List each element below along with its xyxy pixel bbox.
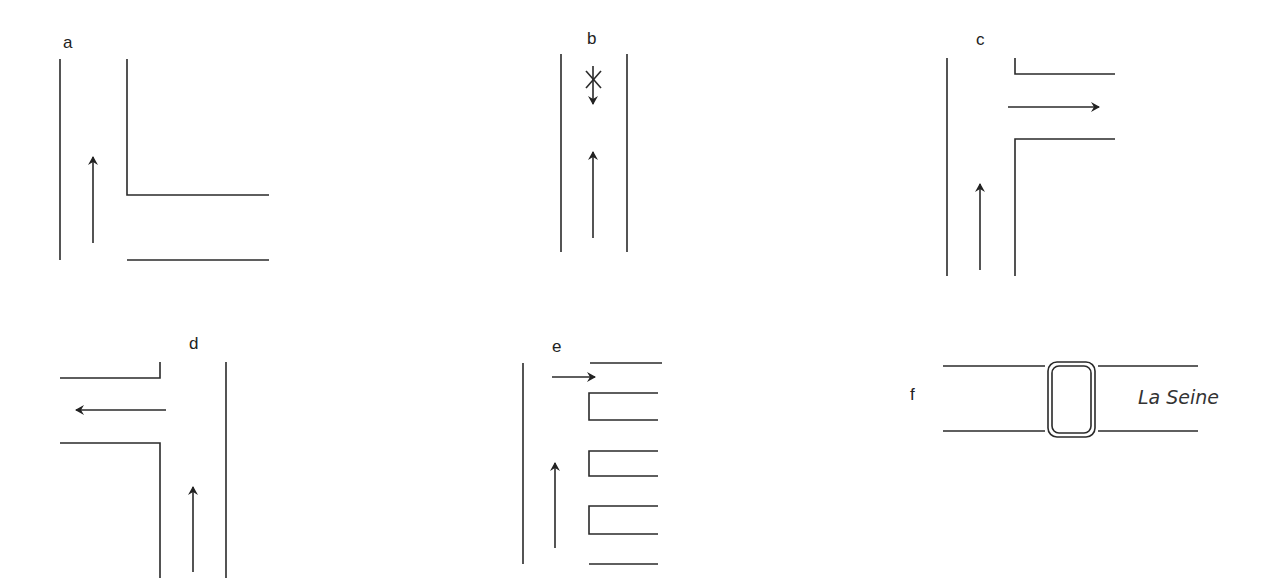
road-edge-corner-bottom (1015, 139, 1115, 276)
bridge-inner (1052, 366, 1091, 433)
panel-f: f La Seine (910, 362, 1219, 437)
road-edge-corner (127, 59, 269, 195)
panel-a-label: a (63, 33, 73, 52)
panel-c-label: c (976, 30, 985, 49)
panel-d: d (60, 334, 226, 578)
panel-b-label: b (587, 29, 596, 48)
panel-e-label: e (552, 337, 561, 356)
bridge-icon (1048, 362, 1095, 437)
road-edge-corner-top (1015, 58, 1115, 74)
diagram-canvas: a b c d e (0, 0, 1272, 584)
panel-c: c (947, 30, 1115, 276)
panel-a: a (60, 33, 269, 260)
opening-3 (589, 506, 658, 534)
panel-b: b (561, 29, 627, 252)
road-edge-corner-top (60, 362, 160, 378)
opening-2 (589, 451, 658, 476)
opening-1 (589, 393, 658, 420)
river-label: La Seine (1138, 386, 1219, 408)
panel-e: e (523, 337, 662, 564)
road-edge-corner-bottom (60, 443, 160, 578)
panel-f-label: f (910, 385, 915, 404)
panel-d-label: d (189, 334, 198, 353)
